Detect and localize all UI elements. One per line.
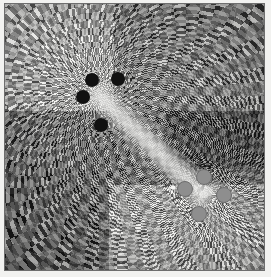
plot-frame bbox=[4, 3, 265, 271]
conformal-grid-canvas bbox=[5, 4, 264, 270]
figure-container: Conformal grid plot of a complex rationa… bbox=[0, 0, 271, 277]
